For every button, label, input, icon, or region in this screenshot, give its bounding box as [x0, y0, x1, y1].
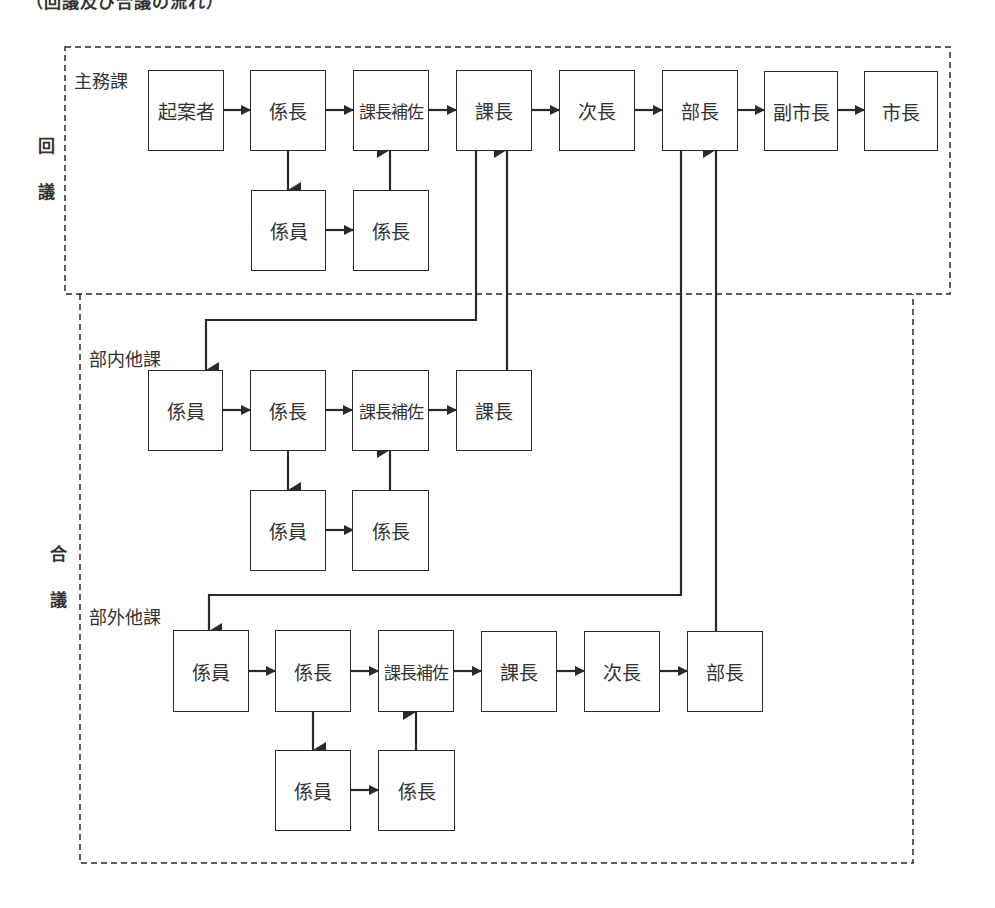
side-label-gou: 合: [50, 540, 67, 565]
box-bunai-kacho: 課長: [456, 370, 532, 451]
box-bunai-kakariin-sub: 係員: [250, 490, 326, 571]
side-label-gi: 議: [38, 178, 55, 203]
box-bunai-kakariin: 係員: [148, 370, 223, 451]
box-kacho: 課長: [456, 70, 532, 151]
box-bugai-bucho: 部長: [687, 631, 763, 712]
box-kacho-hosa: 課長補佐: [353, 70, 429, 151]
box-bugai-kacho-hosa: 課長補佐: [378, 630, 454, 712]
box-bugai-jicho: 次長: [584, 631, 660, 712]
box-kakariin: 係員: [251, 190, 326, 271]
box-bugai-kakariin-sub: 係員: [275, 750, 351, 831]
side-label-gi2: 議: [50, 586, 67, 611]
box-bugai-kakaricho-sub: 係長: [378, 750, 455, 831]
group-label-shumuka: 主務課: [74, 67, 128, 93]
box-bugai-kakariin: 係員: [173, 630, 249, 712]
flow-diagram: （回議及び合議の流れ） 回 議 合 議 主務課 起案者 係長 課長補佐 課長 次…: [0, 0, 995, 908]
box-shicho: 市長: [864, 71, 938, 151]
box-kakaricho: 係長: [250, 70, 326, 151]
group-label-bunai: 部内他課: [89, 345, 161, 371]
box-kian-sha: 起案者: [148, 70, 224, 151]
box-bunai-kakaricho: 係長: [250, 370, 326, 451]
diagram-title: （回議及び合議の流れ）: [26, 0, 224, 13]
box-jicho: 次長: [559, 70, 635, 151]
box-bunai-kacho-hosa: 課長補佐: [352, 370, 429, 451]
box-bucho: 部長: [662, 70, 738, 151]
group-label-bugai: 部外他課: [89, 603, 161, 629]
side-label-kai: 回: [38, 132, 55, 157]
box-fuku-shicho: 副市長: [764, 71, 838, 151]
box-bugai-kakaricho: 係長: [275, 630, 351, 712]
box-bunai-kakaricho-sub: 係長: [352, 490, 429, 571]
box-bugai-kacho: 課長: [481, 631, 557, 712]
box-kakaricho-sub: 係長: [353, 190, 429, 271]
